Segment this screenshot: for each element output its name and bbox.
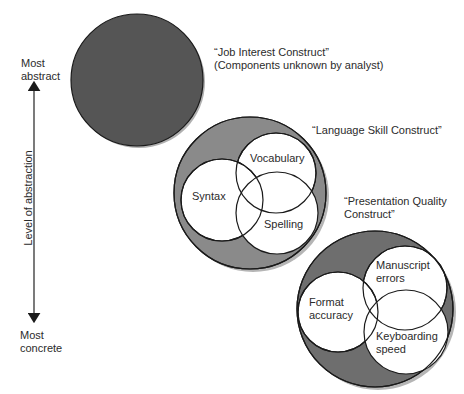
manuscript-errors-line2: errors — [376, 272, 430, 285]
most-concrete-line1: Most — [20, 329, 62, 342]
keyboarding-speed-line1: Keyboarding — [376, 330, 438, 343]
format-accuracy-line1: Format — [309, 296, 353, 309]
presentation-quality-title-line1: “Presentation Quality — [344, 195, 447, 208]
manuscript-errors-line1: Manuscript — [376, 259, 430, 272]
job-interest-title: “Job Interest Construct” (Components unk… — [214, 46, 383, 72]
most-abstract-line2: abstract — [21, 70, 60, 83]
job-interest-title-line2: (Components unknown by analyst) — [214, 59, 383, 72]
most-concrete-label: Most concrete — [20, 329, 62, 355]
spelling-label: Spelling — [264, 218, 303, 231]
level-of-abstraction-label: Level of abstraction — [22, 150, 34, 246]
format-accuracy-line2: accuracy — [309, 309, 353, 322]
presentation-quality-title: “Presentation Quality Construct” — [344, 195, 447, 221]
presentation-quality-title-line2: Construct” — [344, 208, 447, 221]
vocabulary-label: Vocabulary — [250, 152, 304, 165]
syntax-label: Syntax — [192, 190, 226, 203]
keyboarding-speed-label: Keyboarding speed — [376, 330, 438, 356]
most-concrete-line2: concrete — [20, 342, 62, 355]
keyboarding-speed-line2: speed — [376, 343, 438, 356]
most-abstract-label: Most abstract — [21, 57, 60, 83]
language-skill-title: “Language Skill Construct” — [312, 124, 442, 137]
language-skill-title-line1: “Language Skill Construct” — [312, 124, 442, 137]
most-abstract-line1: Most — [21, 57, 60, 70]
job-interest-title-line1: “Job Interest Construct” — [214, 46, 383, 59]
format-accuracy-label: Format accuracy — [309, 296, 353, 322]
job-interest-construct — [71, 14, 205, 148]
manuscript-errors-label: Manuscript errors — [376, 259, 430, 285]
